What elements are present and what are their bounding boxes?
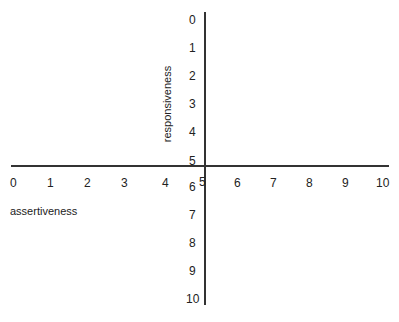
x-tick-label: 7 [270,177,277,189]
x-axis-label: assertiveness [10,205,77,217]
x-tick-label: 2 [84,177,91,189]
y-tick-label: 5 [189,155,196,167]
x-tick-label: 10 [376,177,389,189]
x-tick-label: 0 [10,177,17,189]
y-tick-label: 0 [189,14,196,26]
x-axis-line [11,165,389,167]
x-tick-label: 5 [199,176,206,188]
x-tick-label: 9 [342,177,349,189]
y-tick-label: 3 [189,98,196,110]
x-tick-label: 4 [162,177,169,189]
y-axis-line [204,12,206,305]
y-tick-label: 7 [189,209,196,221]
x-tick-label: 3 [121,177,128,189]
y-tick-label: 6 [189,181,196,193]
y-tick-label: 10 [186,293,199,305]
y-tick-label: 8 [189,237,196,249]
x-tick-label: 6 [234,177,241,189]
y-tick-label: 4 [189,126,196,138]
x-tick-label: 1 [47,177,54,189]
x-tick-label: 8 [306,177,313,189]
y-tick-label: 2 [189,70,196,82]
y-tick-label: 1 [189,42,196,54]
y-axis-label: responsiveness [161,49,173,159]
y-tick-label: 9 [189,265,196,277]
